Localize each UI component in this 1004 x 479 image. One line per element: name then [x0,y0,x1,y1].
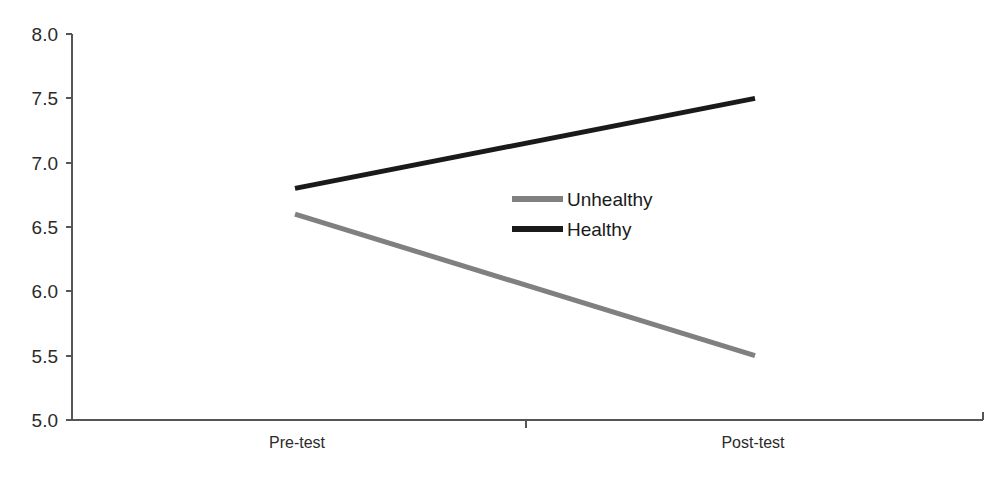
y-tick-label-5-0: 5.0 [32,410,58,431]
legend-label-healthy: Healthy [567,219,632,240]
x-category-label-pre-test: Pre-test [269,434,326,451]
y-tick-label-6-0: 6.0 [32,281,58,302]
y-tick-label-7-0: 7.0 [32,153,58,174]
chart-legend: Unhealthy Healthy [512,189,653,240]
y-tick-label-8-0: 8.0 [32,24,58,45]
y-tick-label-6-5: 6.5 [32,217,58,238]
x-category-label-post-test: Post-test [721,434,785,451]
y-tick-label-5-5: 5.5 [32,346,58,367]
legend-label-unhealthy: Unhealthy [567,189,653,210]
chart-canvas: 8.0 7.5 7.0 6.5 6.0 5.5 5.0 Pre-test Pos… [0,0,1004,479]
y-tick-label-7-5: 7.5 [32,88,58,109]
series-line-healthy [295,98,755,188]
series-line-unhealthy [295,214,755,356]
line-chart: 8.0 7.5 7.0 6.5 6.0 5.5 5.0 Pre-test Pos… [0,0,1004,479]
